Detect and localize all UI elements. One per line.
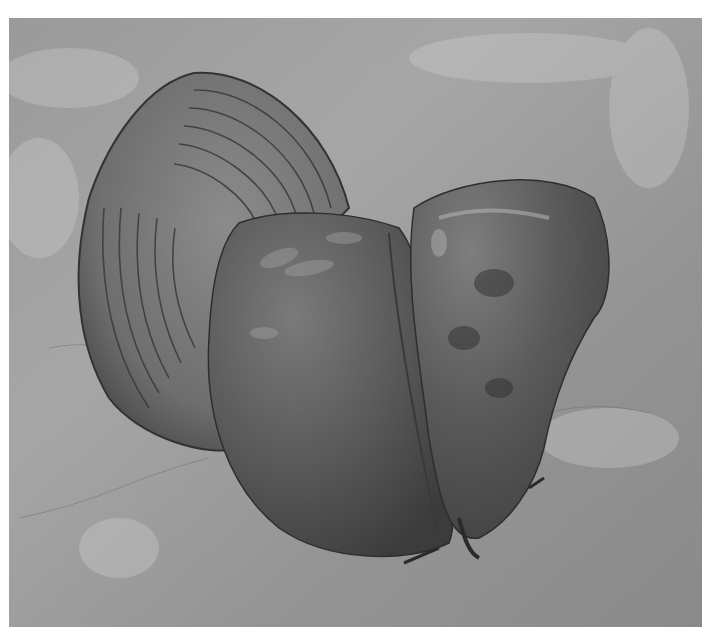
photo-canvas	[9, 18, 702, 627]
cabbage-photo	[9, 18, 702, 627]
